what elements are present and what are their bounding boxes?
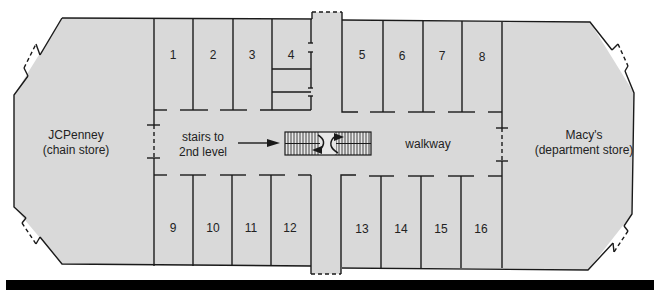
mall-floor-plan: JCPenney (chain store) Macy's (departmen… <box>0 0 654 290</box>
jcpenney-type: (chain store) <box>43 143 110 157</box>
store-number: 5 <box>359 48 366 62</box>
footer-bar <box>6 280 654 290</box>
store-number: 8 <box>479 50 486 64</box>
store-number: 3 <box>249 48 256 62</box>
store-number: 9 <box>170 221 177 235</box>
store-number: 2 <box>210 48 217 62</box>
store-number: 4 <box>288 48 295 62</box>
stairs-label-line2: 2nd level <box>179 145 227 159</box>
store-number: 11 <box>245 221 258 235</box>
store-number: 6 <box>399 49 406 63</box>
store-number: 12 <box>283 221 297 235</box>
walkway-label: walkway <box>404 137 450 151</box>
macys-name: Macy's <box>566 128 603 142</box>
stairs <box>285 132 371 155</box>
store-number: 7 <box>439 49 446 63</box>
store-number: 10 <box>206 221 220 235</box>
store-number: 15 <box>434 222 448 236</box>
store-number: 14 <box>394 222 408 236</box>
store-number: 13 <box>355 222 369 236</box>
store-number: 16 <box>474 222 488 236</box>
jcpenney-name: JCPenney <box>48 128 103 142</box>
stairs-label-line1: stairs to <box>182 130 224 144</box>
store-number: 1 <box>170 48 177 62</box>
macys-type: (department store) <box>535 143 634 157</box>
